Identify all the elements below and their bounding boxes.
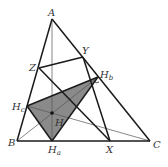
orthic-triangle-diagram: A B C X Y Z H Ha Hb Hc (0, 0, 168, 167)
label-c: C (153, 139, 161, 150)
label-h: H (54, 117, 64, 128)
label-x: X (105, 144, 114, 155)
label-hc: Hc (11, 101, 25, 114)
label-y: Y (82, 45, 90, 56)
main-segments (17, 19, 150, 141)
label-z: Z (28, 62, 37, 73)
orthocenter-dot (50, 111, 54, 115)
altitude-lines (17, 19, 150, 141)
label-b: B (7, 137, 15, 148)
segment-c-a (52, 19, 150, 141)
segment-z-y (39, 57, 83, 68)
label-ha: Ha (47, 144, 61, 157)
label-a: A (47, 7, 55, 18)
